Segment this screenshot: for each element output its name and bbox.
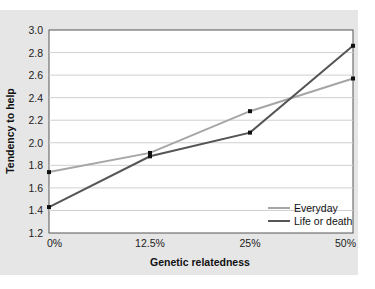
legend-label: Everyday [294, 202, 339, 214]
y-tick-label: 2.0 [28, 137, 43, 149]
x-axis-ticks: 0%12.5%25%50% [47, 237, 356, 249]
y-tick-label: 1.8 [28, 159, 43, 171]
y-tick-label: 1.4 [28, 204, 43, 216]
data-point [148, 154, 152, 158]
legend-label: Life or death [294, 215, 353, 227]
y-tick-label: 2.2 [28, 114, 43, 126]
y-tick-label: 3.0 [28, 24, 43, 36]
x-axis-title: Genetic relatedness [150, 256, 250, 268]
data-point [351, 44, 355, 48]
line-chart: 1.21.41.61.82.02.22.42.62.83.0 0%12.5%25… [0, 0, 375, 289]
x-tick-label: 50% [335, 237, 356, 249]
data-point [47, 205, 51, 209]
x-tick-label: 25% [239, 237, 260, 249]
data-point [351, 76, 355, 80]
y-axis-ticks: 1.21.41.61.82.02.22.42.62.83.0 [28, 24, 43, 239]
x-tick-label: 0% [47, 237, 62, 249]
y-axis-title: Tendency to help [4, 88, 16, 174]
y-tick-label: 2.6 [28, 69, 43, 81]
y-tick-label: 2.4 [28, 92, 43, 104]
data-point [47, 170, 51, 174]
data-point [248, 131, 252, 135]
y-tick-label: 1.2 [28, 227, 43, 239]
x-tick-label: 12.5% [135, 237, 165, 249]
y-tick-label: 1.6 [28, 182, 43, 194]
y-tick-label: 2.8 [28, 47, 43, 59]
data-point [248, 109, 252, 113]
